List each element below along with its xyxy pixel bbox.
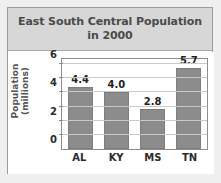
- chart-card: East South Central Population in 2000 Po…: [7, 7, 213, 174]
- x-axis-tick-labels: ALKYMSTN: [61, 152, 208, 166]
- y-axis-tickmark: [59, 91, 63, 92]
- y-axis-tick-label: 2: [50, 107, 57, 117]
- gridline: [62, 134, 207, 135]
- y-axis-tick-labels: 0246: [44, 58, 57, 150]
- x-axis-tick-label: AL: [67, 152, 92, 164]
- chart-plot-region: Population (millions) 0246 4.44.02.85.7 …: [8, 52, 214, 174]
- chart-title-line-2: in 2000: [87, 29, 132, 43]
- y-axis-tickmark: [59, 77, 63, 78]
- bar: [140, 109, 165, 149]
- x-axis-tick-label: TN: [177, 152, 202, 164]
- y-axis-tickmark: [59, 63, 63, 64]
- bar-slot: 5.7: [176, 59, 201, 149]
- bar-slot: 4.0: [104, 59, 129, 149]
- y-axis-tick-label: 0: [50, 135, 57, 145]
- bar-value-label: 4.0: [108, 80, 126, 90]
- chart-title-line-1: East South Central Population: [18, 15, 202, 29]
- y-axis-tickmark: [59, 106, 63, 107]
- bar-series: 4.44.02.85.7: [62, 59, 207, 149]
- y-axis-tick-label: 4: [50, 78, 57, 88]
- bar-slot: 4.4: [68, 59, 93, 149]
- y-axis-tick-label: 6: [50, 50, 57, 60]
- chart-title-band: East South Central Population in 2000: [8, 8, 212, 51]
- gridline: [62, 91, 207, 92]
- chart-screenshot: East South Central Population in 2000 Po…: [0, 0, 221, 183]
- plot-area: 4.44.02.85.7: [61, 58, 208, 150]
- bar-slot: 2.8: [140, 59, 165, 149]
- y-axis-title-line-2: (millions): [20, 67, 30, 115]
- gridline: [62, 77, 207, 78]
- bar: [68, 87, 93, 149]
- bar-value-label: 4.4: [71, 75, 89, 85]
- gridline: [62, 120, 207, 121]
- y-axis-tickmark: [59, 134, 63, 135]
- x-axis-tick-label: MS: [140, 152, 165, 164]
- bar-value-label: 5.7: [180, 56, 198, 66]
- gridline: [62, 63, 207, 64]
- y-axis-tickmark: [59, 120, 63, 121]
- y-axis-title-line-1: Population: [10, 64, 20, 119]
- x-axis-tick-label: KY: [104, 152, 129, 164]
- y-axis-title: Population (millions): [7, 51, 33, 131]
- bar: [176, 68, 201, 149]
- gridline: [62, 106, 207, 107]
